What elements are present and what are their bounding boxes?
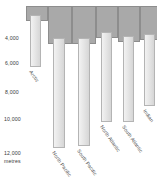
bar-group-north-pacific: North Pacific (48, 0, 72, 189)
axis-tick-4000: 4,000 (5, 35, 19, 41)
bar-group-south-pacific: South Pacific (72, 0, 96, 189)
bar-group-indian: Indian (140, 0, 157, 189)
trench-indian (144, 34, 155, 106)
bar-group-north-atlantic: North Atlantic (96, 0, 118, 189)
axis-tick-12000: 12,000 (4, 150, 21, 156)
axis-tick-8000: 8,000 (5, 89, 19, 95)
trench-south-atlantic (123, 36, 134, 122)
trench-south-pacific (78, 38, 90, 146)
bar-group-south-atlantic: South Atlantic (118, 0, 140, 189)
bar-label-indian: Indian (142, 108, 155, 123)
bar-group-arctic: Arctic (26, 0, 48, 189)
trench-arctic (30, 15, 41, 67)
axis-tick-10000: 10,000 (4, 116, 21, 122)
axis-unit-label: metres (4, 158, 21, 164)
trench-north-atlantic (101, 32, 112, 122)
ocean-depth-chart: 4,000 6,000 8,000 10,000 12,000 metres A… (0, 0, 157, 189)
trench-north-pacific (53, 38, 65, 148)
bar-label-arctic: Arctic (28, 69, 40, 83)
bar-label-north-pacific: North Pacific (51, 150, 73, 178)
axis-tick-6000: 6,000 (5, 60, 19, 66)
plot-area: Arctic North Pacific South Pacific North… (26, 0, 157, 189)
